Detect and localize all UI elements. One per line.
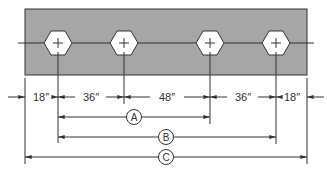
callout-a: A	[58, 110, 210, 125]
dim-label-18-right: 18″	[284, 91, 300, 103]
bolt-plate-diagram: 18″ 36″ 48″ 36″ 18″ A B C	[0, 0, 327, 172]
dim-label-36-left: 36″	[83, 91, 99, 103]
callout-c: C	[25, 150, 307, 165]
callout-b: B	[58, 130, 276, 145]
callout-b-label: B	[163, 132, 170, 143]
dim-label-18-left: 18″	[33, 91, 49, 103]
dim-label-36-right: 36″	[235, 91, 251, 103]
dim-label-48: 48″	[159, 91, 175, 103]
callout-c-label: C	[162, 152, 169, 163]
dimension-row: 18″ 36″ 48″ 36″ 18″	[8, 91, 324, 103]
callout-a-label: A	[131, 112, 138, 123]
